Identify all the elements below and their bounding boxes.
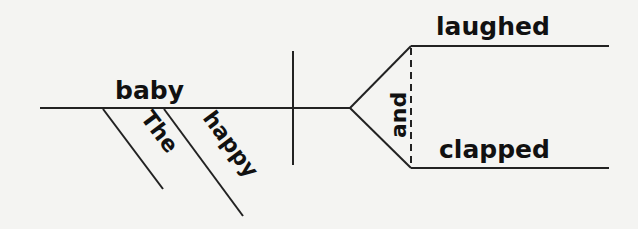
word-predicate-laughed: laughed	[436, 12, 550, 41]
word-subject: baby	[115, 76, 184, 105]
sentence-diagram: baby The happy and laughed clapped	[0, 0, 638, 229]
word-predicate-clapped: clapped	[439, 135, 550, 164]
word-modifier-happy: happy	[198, 106, 264, 182]
word-conjunction: and	[386, 92, 411, 138]
word-modifier-the: The	[136, 106, 183, 157]
